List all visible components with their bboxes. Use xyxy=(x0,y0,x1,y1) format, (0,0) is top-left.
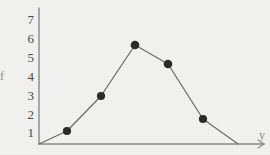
y-tick-label-1: 1 xyxy=(20,126,34,139)
data-point-marker[interactable] xyxy=(131,41,140,50)
chart-screenshot: 7 6 5 4 3 2 1 f y xyxy=(0,0,270,155)
line-chart-plot xyxy=(0,0,270,155)
y-axis-label: f xyxy=(0,70,12,82)
x-axis-label: y xyxy=(259,129,270,141)
y-tick-label-2: 2 xyxy=(20,108,34,121)
data-point-marker[interactable] xyxy=(199,115,207,123)
y-tick-label-3: 3 xyxy=(20,89,34,102)
y-tick-label-7: 7 xyxy=(20,13,34,26)
y-tick-label-5: 5 xyxy=(20,51,34,64)
data-point-marker[interactable] xyxy=(164,60,173,69)
y-tick-label-4: 4 xyxy=(20,70,34,83)
data-point-marker[interactable] xyxy=(97,92,105,100)
data-point-marker[interactable] xyxy=(63,127,71,135)
y-tick-label-6: 6 xyxy=(20,32,34,45)
